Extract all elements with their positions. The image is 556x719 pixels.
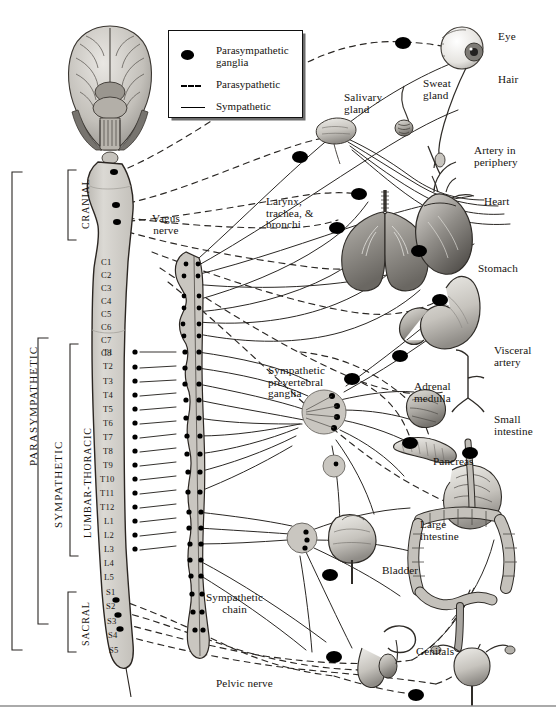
spinal-label-T3: T3 bbox=[103, 377, 113, 386]
salivary-gland-label: Salivary gland bbox=[344, 92, 382, 115]
bracket-sympathetic bbox=[38, 338, 48, 624]
spinal-root-dots bbox=[132, 349, 137, 551]
pelvic-nerve-label: Pelvic nerve bbox=[216, 678, 273, 690]
region-label-lumbar-thoracic: LUMBAR-THORACIC bbox=[82, 427, 93, 538]
bracket-parasympathetic bbox=[12, 172, 22, 650]
eye-illustration bbox=[441, 27, 483, 69]
legend-key-sympathetic-line bbox=[181, 107, 205, 108]
heart-illustration bbox=[416, 176, 474, 274]
spinal-label-C1: C1 bbox=[101, 258, 111, 267]
salivary-gland-illustration bbox=[316, 118, 356, 164]
spinal-label-C3: C3 bbox=[101, 284, 111, 293]
spinal-label-L5: L5 bbox=[104, 573, 114, 582]
vagus-nerve-label: Vagus nerve bbox=[152, 213, 180, 236]
division-label-sympathetic: SYMPATHETIC bbox=[52, 441, 64, 528]
inferior-mesenteric-ganglion bbox=[323, 455, 345, 477]
sympathetic-prevertebral-ganglia-label: Sympathetic prevertebral ganglia bbox=[268, 365, 325, 400]
spinal-label-C5: C5 bbox=[101, 310, 111, 319]
spinal-label-T2: T2 bbox=[103, 362, 113, 371]
spinal-label-C7: C7 bbox=[101, 336, 111, 345]
spinal-label-L3: L3 bbox=[104, 545, 114, 554]
genitals-illustration bbox=[358, 626, 515, 706]
adrenal-medulla-label: Adrenal medulla bbox=[414, 381, 451, 404]
spinal-label-L2: L2 bbox=[104, 531, 114, 540]
division-label-parasympathetic: PARASYMPATHETIC bbox=[27, 346, 39, 466]
spinal-label-T9: T9 bbox=[103, 461, 113, 470]
spinal-label-T7: T7 bbox=[103, 433, 113, 442]
hypogastric-ganglion bbox=[287, 523, 317, 553]
bladder-label: Bladder bbox=[382, 565, 418, 577]
visceral-artery-illustration bbox=[452, 350, 484, 412]
bracket-cranial bbox=[68, 170, 76, 240]
spinal-label-S4: S4 bbox=[108, 631, 117, 640]
brain-illustration bbox=[69, 26, 152, 164]
artery-periphery-illustration bbox=[428, 146, 456, 192]
spinal-label-L4: L4 bbox=[104, 559, 114, 568]
spinal-label-S3: S3 bbox=[107, 617, 116, 626]
spinal-label-S1: S1 bbox=[106, 588, 115, 597]
legend-label-parasympathetic-ganglia: Parasympathetic ganglia bbox=[216, 45, 289, 68]
figure-canvas: Parasympathetic ganglia Parasypathetic S… bbox=[0, 0, 556, 719]
spinal-label-T5: T5 bbox=[103, 405, 113, 414]
sweat-gland-illustration bbox=[395, 86, 413, 136]
legend-key-parasympathetic-line bbox=[181, 85, 201, 87]
pancreas-label: Pancreas bbox=[433, 456, 474, 468]
spinal-label-C4: C4 bbox=[101, 297, 111, 306]
hair-label: Hair bbox=[498, 74, 518, 86]
sweat-gland-label: Sweat gland bbox=[423, 78, 451, 101]
stomach-label: Stomach bbox=[478, 263, 518, 275]
region-label-cranial: CRANIAL bbox=[80, 178, 91, 229]
spinal-label-L1: L1 bbox=[104, 517, 114, 526]
spinal-label-S5: S5 bbox=[109, 646, 118, 655]
genitals-label: Genitals bbox=[416, 646, 454, 658]
spinal-label-T6: T6 bbox=[103, 419, 113, 428]
legend-box: Parasympathetic ganglia Parasypathetic S… bbox=[168, 30, 303, 118]
legend-label-sympathetic: Sympathetic bbox=[216, 101, 271, 113]
region-label-sacral: SACRAL bbox=[80, 601, 91, 646]
spinal-label-T8: T8 bbox=[103, 447, 113, 456]
bracket-sacral bbox=[68, 592, 76, 652]
spinal-label-C2: C2 bbox=[101, 271, 111, 280]
legend-label-parasympathetic: Parasypathetic bbox=[216, 79, 280, 91]
heart-label: Heart bbox=[484, 196, 509, 208]
sympathetic-chain-label: Sympathetic chain bbox=[206, 592, 263, 615]
spinal-label-T1: T1 bbox=[103, 348, 113, 357]
spinal-label-T11: T11 bbox=[100, 489, 114, 498]
larynx-trachea-bronchi-label: Larynx, trachea, & bronchi bbox=[266, 196, 314, 231]
artery-in-periphery-label: Artery in periphery bbox=[474, 145, 518, 168]
large-intestine-label: Large intestine bbox=[420, 519, 459, 542]
visceral-artery-label: Visceral artery bbox=[494, 345, 531, 368]
spinal-label-T10: T10 bbox=[100, 475, 114, 484]
spinal-label-T12: T12 bbox=[100, 503, 114, 512]
small-intestine-label: Small intestine bbox=[494, 414, 533, 437]
spinal-label-C6: C6 bbox=[101, 323, 111, 332]
spinal-label-T4: T4 bbox=[103, 391, 113, 400]
bracket-lumbar-thoracic bbox=[70, 344, 78, 556]
legend-key-parasympathetic-ganglia bbox=[181, 50, 194, 60]
spinal-label-S2: S2 bbox=[106, 602, 115, 611]
eye-label: Eye bbox=[498, 31, 516, 43]
